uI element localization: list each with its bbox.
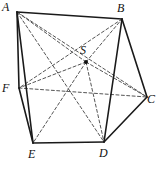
diagonal-BF (19, 19, 122, 88)
geometry-figure: ABCDEFS (0, 0, 157, 169)
edge-EF (19, 88, 33, 143)
vertex-label-f: F (2, 82, 9, 94)
apex-edge-SA (17, 12, 86, 62)
geometry-canvas (0, 0, 157, 169)
edge-FC-hidden (19, 88, 147, 97)
vertex-markers-group (84, 60, 88, 64)
vertex-label-c: C (147, 93, 155, 105)
vertex-label-e: E (28, 148, 35, 160)
apex-edge-SD (86, 62, 104, 142)
edge-AB (17, 12, 122, 19)
vertex-label-s: S (80, 44, 86, 56)
vertex-label-a: A (2, 1, 9, 13)
vertex-label-b: B (117, 2, 124, 14)
vertex-label-d: D (99, 147, 108, 159)
visible-edges-group (17, 12, 147, 143)
edge-DE (33, 142, 104, 143)
hidden-edges-group (17, 12, 147, 143)
edge-CD (104, 97, 147, 142)
apex-point-S (84, 60, 88, 64)
